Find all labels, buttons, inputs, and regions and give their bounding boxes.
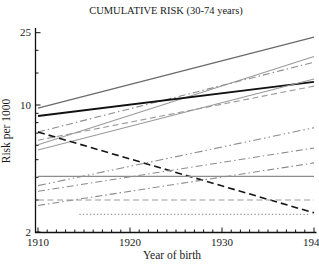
cumulative-risk-chart: 191019201930194025102CUMULATIVE RISK (30… xyxy=(0,0,319,266)
series-mid-solid-line xyxy=(38,79,314,150)
y-tick-label-10: 10 xyxy=(20,99,32,111)
series-lower-dash-dot-lower-line xyxy=(38,163,314,206)
x-tick-label-1920: 1920 xyxy=(119,236,142,248)
y-axis-label: Risk per 1000 xyxy=(0,98,13,163)
series-lower-dash-dot-dot-line xyxy=(38,128,314,186)
y-tick-label-25: 25 xyxy=(20,26,32,38)
y-tick-label-2: 2 xyxy=(26,226,32,238)
series-bold-solid-black-line xyxy=(38,82,314,116)
x-tick-label-1940: 1940 xyxy=(303,236,319,248)
chart-title: CUMULATIVE RISK (30-74 years) xyxy=(89,5,243,17)
series-upper-solid-line xyxy=(38,56,314,144)
figure-canvas: 191019201930194025102CUMULATIVE RISK (30… xyxy=(0,0,319,266)
series-declining-dashed-black-line xyxy=(38,132,314,213)
x-axis-label: Year of birth xyxy=(143,249,201,261)
series-mid-dashed-line xyxy=(38,86,314,140)
x-tick-label-1930: 1930 xyxy=(211,236,234,248)
series-upper-solid-steep-line xyxy=(38,37,314,108)
